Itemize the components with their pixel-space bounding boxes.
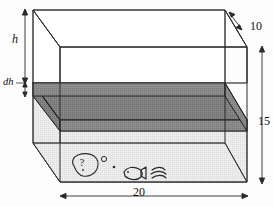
differential-slab-dh — [33, 83, 247, 131]
rock-question-mark: ? — [80, 156, 85, 168]
arrow-20 — [60, 193, 248, 198]
slab-front-face — [60, 120, 247, 131]
arrow-h — [22, 9, 27, 84]
tank-front-panel-upper — [60, 47, 247, 83]
tank-top-opening — [33, 10, 247, 47]
label-slab-thickness-dh: dh — [3, 77, 14, 88]
slab-back-strip — [33, 83, 225, 96]
arrow-dh — [16, 82, 27, 97]
rock-dot — [82, 169, 84, 171]
tank-bottom-face — [33, 143, 247, 182]
label-width-20: 20 — [133, 186, 145, 198]
label-height-h: h — [12, 33, 18, 45]
label-depth-10: 10 — [250, 20, 262, 32]
tank-diagram: ? — [0, 0, 273, 207]
aquarium-figure: ? — [0, 0, 273, 207]
label-height-15: 15 — [258, 115, 270, 127]
bubble-small-icon — [113, 166, 116, 169]
